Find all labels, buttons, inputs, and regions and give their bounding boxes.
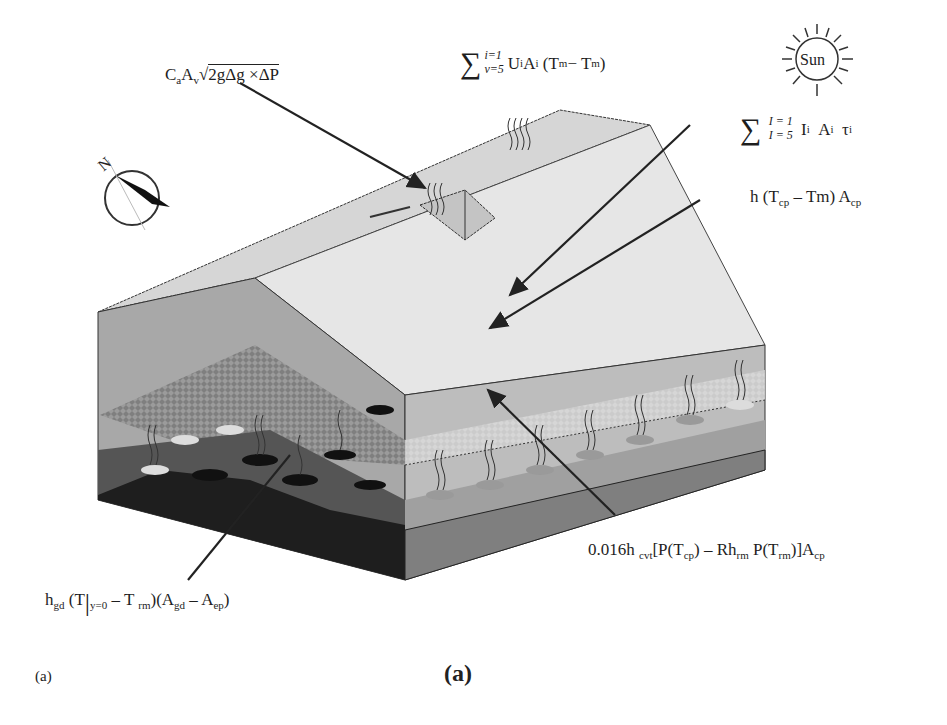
equation-ventilation: CaAv√2gΔg ×ΔP	[165, 66, 279, 86]
compass-icon	[105, 160, 170, 230]
equation-cover-conduction: ∑i=1v=5 UiAi (Tm − Tm)	[460, 48, 606, 78]
sun-label: Sun	[800, 51, 825, 69]
greenhouse-diagram: N	[0, 0, 947, 725]
compass-north-label: N	[95, 153, 115, 174]
equation-transpiration: 0.016h cvt[P(Tcp) – Rhrm P(Trm)]Acp	[588, 541, 825, 561]
equation-solar-gain: ∑ I = 1I = 5 Ii Ai τi	[740, 114, 852, 144]
caption-large: (a)	[444, 660, 472, 687]
equation-ground-conduction: hgd (T|y=0 – T rm)(Agd – Aep)	[45, 590, 230, 616]
caption-small: (a)	[35, 668, 52, 685]
equation-canopy-convection: h (Tcp – Tm) Acp	[750, 188, 861, 208]
